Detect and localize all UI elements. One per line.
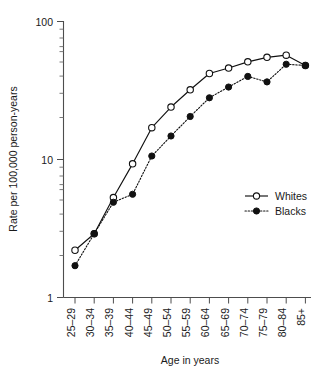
legend-marker-open-circle [253, 193, 259, 199]
data-point [283, 52, 289, 58]
x-tick-label-1: 30–34 [84, 308, 96, 337]
x-axis-title: Age in years [161, 354, 219, 366]
data-point [283, 61, 289, 67]
legend: Whites Blacks [245, 190, 307, 217]
data-point [187, 113, 193, 119]
series-line-whites [75, 55, 305, 250]
y-tick-label-1: 1 [47, 292, 53, 304]
data-point [72, 247, 78, 253]
data-point [129, 161, 135, 167]
data-point [168, 104, 174, 110]
x-axis: 25–29 30–34 35–39 40–44 45–49 50–54 55–5… [64, 298, 312, 367]
y-tick-label-100: 100 [35, 16, 53, 28]
data-point [187, 87, 193, 93]
legend-label-blacks: Blacks [275, 205, 306, 217]
x-tick-label-9: 70–74 [238, 308, 250, 337]
data-point [72, 263, 78, 269]
series-layer [72, 52, 309, 269]
x-tick-label-7: 60–64 [199, 308, 211, 337]
y-axis: 100 10 1 Rate per 100,000 person-years [7, 16, 64, 304]
x-tick-label-2: 35–39 [103, 308, 115, 337]
data-point [130, 191, 136, 197]
data-point [206, 70, 212, 76]
x-tick-label-4: 45–49 [142, 308, 154, 337]
legend-entry-blacks[interactable]: Blacks [245, 205, 306, 217]
data-point [149, 125, 155, 131]
x-tick-label-11: 80–84 [276, 308, 288, 337]
series-whites [72, 52, 309, 253]
data-point [264, 54, 270, 60]
data-point [245, 73, 251, 79]
data-point [226, 84, 232, 90]
data-point [206, 95, 212, 101]
data-point [149, 153, 155, 159]
x-tick-label-6: 55–59 [180, 308, 192, 337]
data-point [168, 133, 174, 139]
data-point [264, 79, 270, 85]
data-point [225, 65, 231, 71]
x-tick-label-10: 75–79 [257, 308, 269, 337]
series-line-blacks [75, 64, 305, 265]
legend-marker-filled-circle [253, 208, 259, 214]
x-tick-label-5: 50–54 [161, 308, 173, 337]
chart-canvas: 100 10 1 Rate per 100,000 person-years 2… [0, 0, 330, 376]
chart-figure: 100 10 1 Rate per 100,000 person-years 2… [0, 0, 330, 376]
y-axis-title: Rate per 100,000 person-years [7, 86, 19, 231]
y-tick-label-10: 10 [41, 154, 53, 166]
data-point [245, 59, 251, 65]
x-tick-label-8: 65–69 [219, 308, 231, 337]
data-point [302, 62, 308, 68]
data-point [91, 231, 97, 237]
legend-entry-whites[interactable]: Whites [245, 190, 307, 202]
x-tick-label-12: 85+ [295, 308, 307, 326]
x-tick-label-0: 25–29 [65, 308, 77, 337]
x-tick-label-3: 40–44 [123, 308, 135, 337]
data-point [110, 199, 116, 205]
legend-label-whites: Whites [275, 190, 307, 202]
